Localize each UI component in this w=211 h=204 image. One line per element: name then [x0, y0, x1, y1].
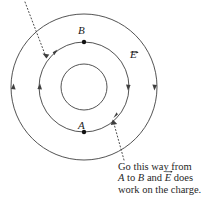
arrowhead-pointer-upper — [43, 54, 50, 59]
caption-and: and — [144, 172, 164, 183]
caption-block: Go this way from A to B and E does work … — [118, 161, 210, 195]
arrowhead-middle-left — [37, 84, 42, 90]
arrowhead-middle-right — [126, 85, 131, 91]
caption-vector-e: E — [165, 172, 171, 183]
arrowhead-outer-left — [11, 84, 16, 90]
field-label-e-text: E — [130, 48, 137, 60]
dotted-line-upper — [25, 2, 46, 57]
field-label-e: E — [130, 49, 137, 60]
vector-symbol-e: E — [130, 49, 137, 60]
point-label-a: A — [78, 120, 85, 131]
outer-circle-arrowheads — [11, 84, 157, 91]
caption-line-2: A to B and E does — [118, 172, 210, 183]
point-label-b: B — [78, 25, 85, 36]
inner-circle — [61, 64, 107, 110]
caption-line-3: work on the charge. — [118, 184, 210, 195]
point-marker-B — [82, 40, 86, 44]
dotted-line-lower — [114, 122, 125, 160]
annotation-pointer-upper — [25, 2, 49, 59]
caption-line-1: Go this way from — [118, 161, 210, 172]
middle-circle-arrowheads — [37, 50, 130, 118]
caption-to: to — [124, 172, 137, 183]
caption-e-text: E — [165, 172, 171, 183]
physics-figure: B A E Go this way from A to B and E does… — [0, 0, 211, 204]
caption-does: does — [171, 172, 193, 183]
arrowhead-outer-right — [152, 85, 157, 91]
